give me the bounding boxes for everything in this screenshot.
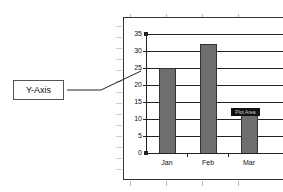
y-axis-callout: Y-Axis	[13, 80, 64, 100]
plot-area-tooltip: Plot Area	[231, 108, 260, 116]
